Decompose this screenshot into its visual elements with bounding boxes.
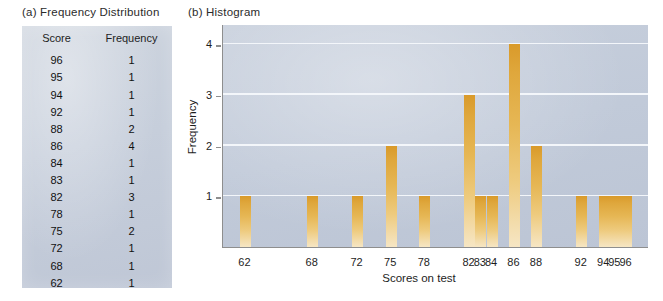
table-row: 781: [22, 206, 172, 223]
bar-86: [509, 44, 520, 247]
table-row: 752: [22, 223, 172, 240]
cell-score: 84: [22, 155, 91, 172]
cell-frequency: 4: [91, 137, 172, 154]
bar-92: [576, 196, 587, 247]
table-row: 951: [22, 69, 172, 86]
column-header-frequency: Frequency: [91, 26, 172, 52]
y-tick-mark-1: [216, 197, 221, 198]
cell-frequency: 2: [91, 120, 172, 137]
bar-84: [487, 196, 498, 247]
x-tick-label-75: 75: [378, 256, 402, 268]
x-tick-label-84: 84: [479, 256, 503, 268]
cell-score: 62: [22, 274, 91, 291]
frequency-distribution-panel: Score Frequency 961951941921882864841831…: [22, 26, 172, 288]
cell-frequency: 1: [91, 240, 172, 257]
table-row: 831: [22, 172, 172, 189]
cell-score: 82: [22, 189, 91, 206]
y-tick-label-4: 4: [194, 38, 212, 50]
cell-score: 75: [22, 223, 91, 240]
y-tick-mark-3: [216, 96, 221, 97]
histogram-panel: Frequency 1234 6268727578828384868892949…: [188, 25, 650, 273]
bar-72: [352, 196, 363, 247]
cell-score: 83: [22, 172, 91, 189]
cell-frequency: 2: [91, 223, 172, 240]
x-axis-title: Scores on test: [188, 272, 650, 284]
table-row: 823: [22, 189, 172, 206]
gridline-y-4: [223, 43, 648, 45]
table-row: 864: [22, 137, 172, 154]
table-row: 941: [22, 86, 172, 103]
y-tick-mark-4: [216, 45, 221, 46]
cell-frequency: 1: [91, 103, 172, 120]
x-tick-label-88: 88: [524, 256, 548, 268]
cell-frequency: 1: [91, 155, 172, 172]
bar-62: [240, 196, 251, 247]
table-row: 841: [22, 155, 172, 172]
x-tick-label-62: 62: [232, 256, 256, 268]
cell-score: 86: [22, 137, 91, 154]
cell-score: 92: [22, 103, 91, 120]
y-tick-label-3: 3: [194, 89, 212, 101]
frequency-table-body: 9619519419218828648418318237817527216816…: [22, 52, 172, 291]
x-tick-label-72: 72: [345, 256, 369, 268]
gridline-y-2: [223, 144, 648, 146]
panel-a-caption: (a) Frequency Distribution: [22, 6, 160, 18]
x-tick-label-96: 96: [614, 256, 638, 268]
y-tick-label-1: 1: [194, 190, 212, 202]
frequency-table: Score Frequency 961951941921882864841831…: [22, 26, 172, 291]
bar-68: [307, 196, 318, 247]
bar-96: [621, 196, 632, 247]
cell-frequency: 1: [91, 206, 172, 223]
table-row: 921: [22, 103, 172, 120]
panel-b-caption: (b) Histogram: [188, 6, 260, 18]
y-tick-mark-2: [216, 147, 221, 148]
cell-frequency: 1: [91, 86, 172, 103]
bar-94: [599, 196, 610, 247]
cell-score: 96: [22, 52, 91, 69]
cell-score: 94: [22, 86, 91, 103]
cell-frequency: 1: [91, 172, 172, 189]
bar-83: [475, 196, 486, 247]
cell-score: 68: [22, 257, 91, 274]
bar-78: [419, 196, 430, 247]
table-header-row: Score Frequency: [22, 26, 172, 52]
bar-95: [610, 196, 621, 247]
bar-88: [531, 146, 542, 247]
table-row: 721: [22, 240, 172, 257]
plot-area: [222, 25, 648, 248]
table-row: 882: [22, 120, 172, 137]
cell-score: 78: [22, 206, 91, 223]
bar-75: [386, 146, 397, 247]
table-row: 621: [22, 274, 172, 291]
gridline-y-3: [223, 93, 648, 95]
cell-frequency: 1: [91, 52, 172, 69]
bar-82: [464, 95, 475, 247]
cell-score: 95: [22, 69, 91, 86]
cell-frequency: 3: [91, 189, 172, 206]
x-tick-label-68: 68: [300, 256, 324, 268]
cell-score: 72: [22, 240, 91, 257]
y-tick-label-2: 2: [194, 140, 212, 152]
x-tick-label-86: 86: [501, 256, 525, 268]
x-tick-label-92: 92: [569, 256, 593, 268]
cell-score: 88: [22, 120, 91, 137]
cell-frequency: 1: [91, 69, 172, 86]
x-tick-label-78: 78: [412, 256, 436, 268]
cell-frequency: 1: [91, 257, 172, 274]
column-header-score: Score: [22, 26, 91, 52]
table-row: 681: [22, 257, 172, 274]
cell-frequency: 1: [91, 274, 172, 291]
table-row: 961: [22, 52, 172, 69]
